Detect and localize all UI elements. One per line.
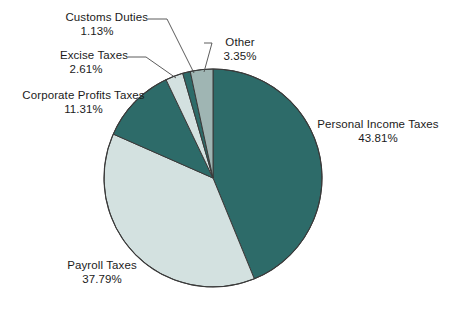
label-customs-duties-name: Customs Duties: [46, 11, 148, 25]
label-personal-income-taxes-value: 43.81%: [313, 132, 443, 146]
label-payroll-taxes-value: 37.79%: [58, 273, 146, 287]
leader-line-excise-taxes: [128, 57, 176, 78]
label-payroll-taxes: Payroll Taxes 37.79%: [58, 259, 146, 286]
label-excise-taxes-name: Excise Taxes: [44, 49, 128, 63]
label-corporate-profits-taxes-name: Corporate Profits Taxes: [11, 89, 156, 103]
leader-line-other: [204, 43, 212, 72]
label-customs-duties: Customs Duties 1.13%: [46, 11, 148, 38]
label-excise-taxes-value: 2.61%: [44, 63, 128, 77]
label-corporate-profits-taxes: Corporate Profits Taxes 11.31%: [11, 89, 156, 116]
leader-line-customs-duties: [148, 19, 194, 73]
label-personal-income-taxes-name: Personal Income Taxes: [313, 118, 443, 132]
label-other-value: 3.35%: [212, 50, 268, 64]
label-corporate-profits-taxes-value: 11.31%: [11, 103, 156, 117]
label-excise-taxes: Excise Taxes 2.61%: [44, 49, 128, 76]
label-personal-income-taxes: Personal Income Taxes 43.81%: [313, 118, 443, 145]
label-payroll-taxes-name: Payroll Taxes: [58, 259, 146, 273]
label-other: Other 3.35%: [212, 36, 268, 63]
pie-chart: Customs Duties 1.13% Excise Taxes 2.61% …: [0, 0, 454, 312]
label-customs-duties-value: 1.13%: [46, 25, 148, 39]
label-other-name: Other: [212, 36, 268, 50]
